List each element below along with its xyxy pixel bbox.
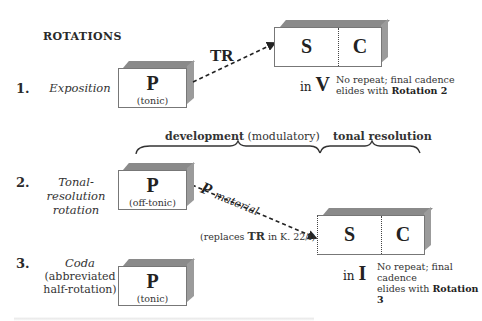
tr-arrow <box>193 43 275 82</box>
row-2-label: Tonal-resolution rotation <box>32 175 120 217</box>
sub-line: (abbreviated <box>40 270 120 283</box>
note-line: elides with Rotation 2 <box>336 85 455 96</box>
s-section: S <box>275 28 339 66</box>
key-letter: V <box>315 73 329 95</box>
note-line: No repeat; final cadence <box>336 74 455 85</box>
key-prefix: in <box>343 269 355 283</box>
replaces-note: (replaces TR in K. 22/i) <box>200 230 315 243</box>
c-section: C <box>339 28 381 66</box>
p-sub: (tonic) <box>119 293 186 304</box>
box-front-face: P (off-tonic) <box>118 170 187 210</box>
box-top-face <box>123 259 195 266</box>
note-bold: Rotation 2 <box>391 85 447 96</box>
note-prefix: elides with <box>336 85 388 96</box>
key-v: in V <box>300 73 330 96</box>
development-label: development (modulatory) <box>165 130 320 143</box>
replaces-bold: TR <box>248 230 265 243</box>
row-3-label: Coda (abbreviated half-rotation) <box>40 256 120 296</box>
clipped-caption <box>14 315 314 321</box>
p-letter: P <box>119 270 186 293</box>
replaces-prefix: (replaces <box>200 231 244 242</box>
c-section: C <box>382 216 424 254</box>
row-3-number: 3. <box>16 256 30 271</box>
p-box-coda: P (tonic) <box>118 259 194 306</box>
brace-bold: development <box>165 130 244 143</box>
row-2-number: 2. <box>16 175 30 190</box>
tonal-resolution-note: No repeat; final cadence elides with Rot… <box>377 261 482 305</box>
box-top-face <box>280 20 390 27</box>
box-side-face <box>187 258 194 302</box>
tonal-resolution-label: tonal resolution <box>333 130 432 143</box>
box-top-face <box>323 208 433 215</box>
box-side-face <box>424 207 431 251</box>
s-section: S <box>318 216 382 254</box>
label-line: Tonal-resolution <box>32 175 120 203</box>
p-sub: (off-tonic) <box>119 197 186 208</box>
key-letter: I <box>358 262 366 284</box>
p-letter: P <box>119 174 186 197</box>
box-top-face <box>123 163 195 170</box>
key-i: in I <box>343 262 366 285</box>
box-front-face: S C <box>317 215 425 255</box>
replaces-suffix: in K. 22/i) <box>268 231 315 242</box>
note-line: elides with Rotation 3 <box>377 283 482 305</box>
sc-box-tonal-resolution: S C <box>317 208 432 255</box>
sub-line: half-rotation) <box>40 283 120 296</box>
key-prefix: in <box>300 80 312 94</box>
box-front-face: S C <box>274 27 382 67</box>
note-line: No repeat; final cadence <box>377 261 482 283</box>
label-line: Coda <box>40 256 120 270</box>
brace-rest: (modulatory) <box>248 130 320 143</box>
box-side-face <box>187 162 194 206</box>
p-box-tonal-resolution: P (off-tonic) <box>118 163 194 210</box>
box-front-face: P (tonic) <box>118 266 187 306</box>
tr-arrow-label: TR <box>210 46 234 66</box>
label-line: rotation <box>32 203 120 217</box>
note-prefix: elides with <box>377 283 429 294</box>
box-side-face <box>381 19 388 63</box>
brace-bold: tonal resolution <box>333 130 432 143</box>
exposition-note: No repeat; final cadence elides with Rot… <box>336 74 455 96</box>
sc-box-exposition: S C <box>274 20 389 67</box>
